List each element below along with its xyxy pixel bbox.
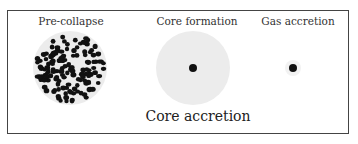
planet-dot-icon [289,64,297,72]
pre-collapse-cloud [33,31,107,105]
gas-accretion-planet [285,60,301,76]
caption-core-accretion: Core accretion [145,108,250,124]
core-dot-icon [189,64,197,72]
core-formation-cloud [156,31,230,105]
